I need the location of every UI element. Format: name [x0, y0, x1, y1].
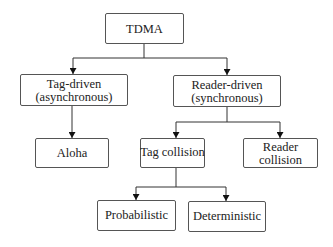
- node-aloha: Aloha: [36, 139, 109, 168]
- node-reader-driven: Reader-driven (synchronous): [174, 76, 281, 107]
- node-tag-collision: Tag collision: [140, 139, 205, 168]
- node-deterministic-label: Deterministic: [193, 209, 261, 223]
- node-tag-collision-label: Tag collision: [140, 145, 205, 159]
- node-reader-collision-label-line2: collision: [259, 153, 303, 167]
- edge-tag-collision-to-children: [136, 167, 226, 201]
- node-tdma: TDMA: [106, 14, 184, 44]
- node-tag-driven-label-line1: Tag-driven: [47, 77, 102, 91]
- node-reader-driven-label-line1: Reader-driven: [191, 78, 263, 92]
- edge-reader-driven-to-children: [176, 106, 280, 138]
- edge-tdma-to-children: [73, 43, 227, 75]
- node-aloha-label: Aloha: [57, 146, 88, 160]
- node-deterministic: Deterministic: [189, 202, 266, 232]
- node-reader-driven-label-line2: (synchronous): [191, 91, 263, 105]
- tdma-classification-diagram: TDMA Tag-driven (asynchronous) Reader-dr…: [0, 0, 333, 247]
- node-tdma-label: TDMA: [126, 22, 163, 36]
- edges: [72, 43, 280, 201]
- node-probabilistic: Probabilistic: [98, 201, 176, 231]
- node-reader-collision: Reader collision: [244, 139, 318, 168]
- node-tag-driven: Tag-driven (asynchronous): [21, 75, 128, 106]
- node-tag-driven-label-line2: (asynchronous): [35, 90, 112, 104]
- node-probabilistic-label: Probabilistic: [105, 208, 169, 222]
- node-reader-collision-label-line1: Reader: [263, 140, 299, 154]
